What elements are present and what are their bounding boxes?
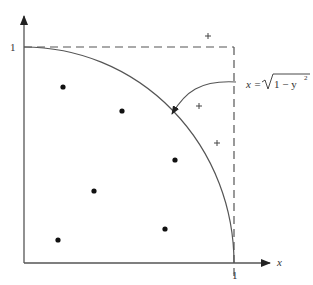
inside-point xyxy=(119,108,124,113)
outside-point xyxy=(214,140,220,146)
equation-label: x = 1 − y 2 xyxy=(245,74,310,90)
quarter-circle-curve xyxy=(24,47,234,263)
diagram-canvas: 1 1 x x = 1 − y 2 xyxy=(0,0,313,285)
inside-point xyxy=(91,188,96,193)
inside-point xyxy=(60,84,65,89)
inside-point xyxy=(162,226,167,231)
inside-point xyxy=(172,157,177,162)
inside-points xyxy=(55,84,177,242)
x-axis-label: x xyxy=(276,256,282,268)
svg-text:1 − y: 1 − y xyxy=(274,78,297,90)
svg-text:x =: x = xyxy=(245,78,261,90)
outside-point xyxy=(205,33,211,39)
outside-points xyxy=(196,33,220,146)
outside-point xyxy=(196,103,202,109)
y-tick-label: 1 xyxy=(10,41,16,53)
inside-point xyxy=(55,237,60,242)
annotation-arrow xyxy=(172,82,236,114)
svg-text:2: 2 xyxy=(304,74,308,82)
x-tick-label: 1 xyxy=(232,269,238,281)
